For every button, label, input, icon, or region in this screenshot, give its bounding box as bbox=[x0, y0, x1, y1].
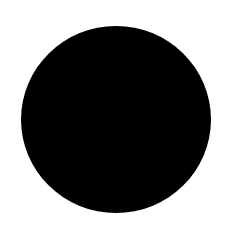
black-circle bbox=[21, 26, 211, 213]
